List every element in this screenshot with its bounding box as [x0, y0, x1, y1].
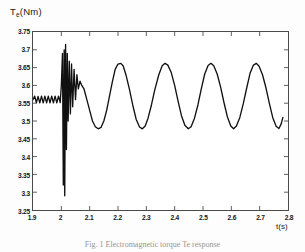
y-axis-tick-label: 3.3: [21, 190, 30, 197]
plot-area: [32, 31, 289, 211]
y-axis-tick-label: 3.65: [18, 64, 30, 71]
x-axis-tick-label: 2: [59, 214, 62, 221]
x-axis-tick-label: 2.7: [256, 214, 265, 221]
y-axis-tick-label: 3.45: [18, 136, 30, 143]
figure-panel: Te(Nm) 3.253.33.353.43.453.53.553.63.653…: [0, 0, 305, 252]
y-axis-tick-label: 3.75: [18, 28, 30, 35]
y-axis-tick-label: 3.55: [18, 100, 30, 107]
x-axis-title: t(s): [276, 222, 288, 231]
torque-waveform: [33, 44, 283, 195]
y-axis-tick-label: 3.4: [21, 154, 30, 161]
y-axis-tick-label: 3.7: [21, 46, 30, 53]
figure-caption: Fig. 1 Electromagnetic torque Te respons…: [0, 240, 305, 249]
plot-canvas: [33, 32, 288, 210]
x-axis-tick-label: 2.5: [199, 214, 208, 221]
axis-tick-marks: [33, 32, 288, 210]
y-axis-tick-labels: 3.253.33.353.43.453.53.553.63.653.73.75: [0, 31, 30, 211]
y-axis-title-unit: (Nm): [20, 6, 42, 17]
x-axis-tick-labels: 1.922.12.22.32.42.52.62.72.8: [32, 214, 289, 226]
x-axis-tick-label: 2.8: [285, 214, 294, 221]
x-axis-tick-label: 2.3: [142, 214, 151, 221]
x-axis-tick-label: 1.9: [28, 214, 37, 221]
x-axis-tick-label: 2.2: [113, 214, 122, 221]
y-axis-tick-label: 3.35: [18, 172, 30, 179]
y-axis-tick-label: 3.6: [21, 82, 30, 89]
y-axis-title: Te(Nm): [10, 6, 42, 18]
x-axis-tick-label: 2.4: [170, 214, 179, 221]
x-axis-tick-label: 2.1: [85, 214, 94, 221]
y-axis-tick-label: 3.5: [21, 118, 30, 125]
x-axis-tick-label: 2.6: [228, 214, 237, 221]
